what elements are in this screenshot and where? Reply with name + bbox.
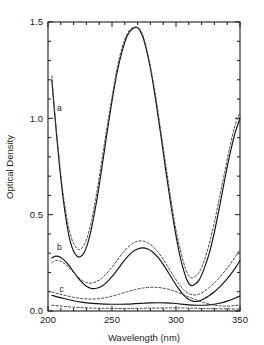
x-tick-labels: 200250300350 [40, 314, 248, 325]
spectrum-figure: 200250300350 0.00.51.01.5 abc Wavelength… [0, 0, 264, 345]
curve-label-a: a [57, 103, 62, 113]
x-tick-label: 250 [104, 314, 120, 325]
curve-a-solid [52, 27, 240, 285]
curve-label-b: b [57, 242, 62, 252]
y-tick-labels: 0.00.51.01.5 [30, 16, 43, 316]
axis-ticks [48, 22, 240, 311]
y-tick-label: 0.0 [30, 305, 43, 316]
plot-frame [48, 22, 240, 311]
curve-label-c: c [60, 284, 65, 294]
curve-c-solid [52, 295, 240, 305]
data-curves [52, 27, 240, 309]
y-tick-label: 1.5 [30, 16, 43, 27]
y-tick-label: 1.0 [30, 113, 43, 124]
curve-a-dotted [52, 27, 240, 278]
y-axis-title: Optical Density [4, 135, 15, 199]
x-tick-label: 300 [168, 314, 184, 325]
y-tick-label: 0.5 [30, 209, 43, 220]
curve-b-dotted [52, 241, 240, 295]
curve-c-baseline [52, 305, 240, 309]
curve-b-solid [52, 248, 240, 302]
plot-canvas: 200250300350 0.00.51.01.5 abc Wavelength… [0, 0, 264, 345]
x-tick-label: 350 [232, 314, 248, 325]
x-axis-title: Wavelength (nm) [108, 332, 180, 343]
